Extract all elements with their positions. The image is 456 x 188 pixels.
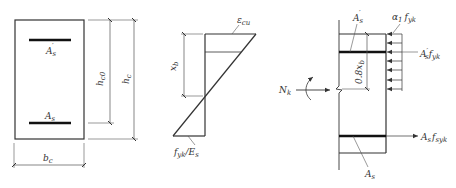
section-outline xyxy=(15,20,84,139)
moment-arrow-icon xyxy=(306,77,313,100)
width-label: bc xyxy=(43,153,53,165)
stress-block-arrows xyxy=(387,34,402,89)
strain-diagram: xb εcu fyk/Es xyxy=(168,15,256,159)
rc-column-diagram: As′ As hc0 hc bc xb εcu fyk/Es xyxy=(0,0,456,188)
axial-force-label: Nk xyxy=(278,85,291,97)
compression-rebar-label: As′ xyxy=(352,9,364,25)
strain-line xyxy=(173,34,256,136)
concrete-stress-label: α1fyk xyxy=(392,12,416,24)
bottom-strain-label: fyk/Es xyxy=(173,147,199,159)
stress-diagram: 0.8xb α1fyk A′sfyk As′ Asfsyk As Nk xyxy=(278,9,447,181)
bottom-rebar-label: As xyxy=(44,111,56,123)
cross-section: As′ As hc0 hc bc xyxy=(14,20,138,168)
tension-force-label: Asfsyk xyxy=(420,132,447,144)
section-break-line xyxy=(336,20,342,170)
depth-label: hc xyxy=(121,74,133,84)
block-depth-label: 0.8xb xyxy=(354,60,366,84)
neutral-axis-label: xb xyxy=(168,61,180,71)
effective-depth-label: hc0 xyxy=(95,71,107,86)
top-rebar-label: As′ xyxy=(45,42,57,58)
tension-rebar-label: As xyxy=(364,169,376,181)
compression-force-label: A′sfyk xyxy=(419,47,440,61)
